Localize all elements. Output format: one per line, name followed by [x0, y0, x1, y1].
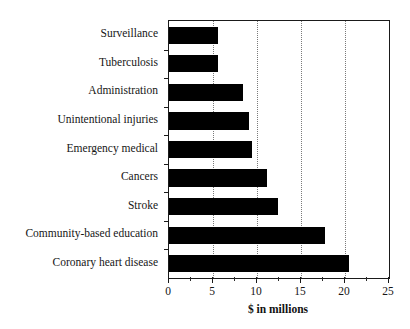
- bar-row: [169, 198, 389, 215]
- bar: [169, 112, 249, 129]
- x-axis-tick-20: [344, 277, 345, 283]
- bar-row: [169, 84, 389, 101]
- x-axis-tick-label: 20: [338, 285, 350, 297]
- x-axis-tick-0: [168, 277, 169, 283]
- bar: [169, 227, 325, 244]
- y-axis-label: Surveillance: [101, 29, 158, 41]
- x-axis-minor-tick: [234, 277, 235, 281]
- y-axis-tick: [164, 50, 169, 51]
- bar-row: [169, 141, 389, 158]
- plot-area: [168, 20, 390, 279]
- x-axis-tick-5: [212, 277, 213, 283]
- bar-row: [169, 55, 389, 72]
- y-axis-label: Community-based education: [25, 228, 158, 240]
- bar: [169, 27, 218, 44]
- y-axis-label: Cancers: [121, 171, 158, 183]
- x-axis-tick-label: 10: [250, 285, 262, 297]
- bar-row: [169, 227, 389, 244]
- y-axis-label: Coronary heart disease: [53, 257, 158, 269]
- bar-row: [169, 112, 389, 129]
- x-axis-title: $ in millions: [168, 303, 388, 315]
- bar-row: [169, 27, 389, 44]
- y-axis-tick: [164, 78, 169, 79]
- x-axis-tick-15: [300, 277, 301, 283]
- bar: [169, 169, 267, 186]
- y-axis-label: Emergency medical: [67, 143, 158, 155]
- bar: [169, 84, 243, 101]
- y-axis-tick: [164, 221, 169, 222]
- x-axis-tick-label: 5: [209, 285, 215, 297]
- y-axis-label: Administration: [88, 86, 158, 98]
- x-axis-tick-label: 15: [294, 285, 306, 297]
- y-axis-label: Tuberculosis: [99, 57, 158, 69]
- y-axis-label: Unintentional injuries: [57, 114, 158, 126]
- bar: [169, 141, 252, 158]
- x-axis-tick-label: 25: [382, 285, 394, 297]
- bar: [169, 255, 349, 272]
- x-axis-minor-tick: [322, 277, 323, 281]
- x-axis-tick-10: [256, 277, 257, 283]
- bar: [169, 198, 278, 215]
- x-axis-tick-label: 0: [165, 285, 171, 297]
- y-axis-tick: [164, 192, 169, 193]
- bar-row: [169, 169, 389, 186]
- x-axis-minor-tick: [366, 277, 367, 281]
- y-axis-label: Stroke: [128, 200, 158, 212]
- y-axis-tick: [164, 107, 169, 108]
- bar-row: [169, 255, 389, 272]
- bar: [169, 55, 218, 72]
- y-axis-labels: SurveillanceTuberculosisAdministrationUn…: [0, 20, 163, 277]
- y-axis-tick: [164, 135, 169, 136]
- x-axis-minor-tick: [278, 277, 279, 281]
- y-axis-tick: [164, 164, 169, 165]
- y-axis-tick: [164, 249, 169, 250]
- bar-chart: SurveillanceTuberculosisAdministrationUn…: [0, 0, 410, 329]
- x-axis-minor-tick: [190, 277, 191, 281]
- x-axis-tick-25: [388, 277, 389, 283]
